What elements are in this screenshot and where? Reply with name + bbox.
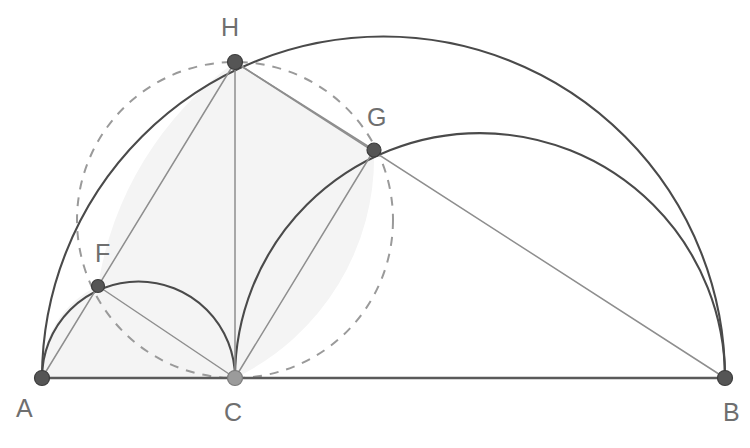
point-label-c: C [224, 398, 242, 426]
point-label-g: G [367, 103, 387, 131]
point-label-h: H [221, 13, 239, 41]
vertex-point-f [92, 280, 105, 293]
vertex-point-g [367, 143, 381, 157]
point-label-b: B [723, 398, 740, 426]
point-label-a: A [16, 394, 33, 422]
vertex-point-b [718, 371, 733, 386]
figure-canvas: A C B F H G [0, 0, 750, 448]
vertex-point-a [35, 371, 50, 386]
vertex-point-h [228, 55, 243, 70]
interior-shaded-region [42, 62, 374, 378]
point-label-f: F [95, 239, 111, 267]
vertex-point-c [228, 371, 243, 386]
geometry-figure: A C B F H G [0, 0, 750, 448]
